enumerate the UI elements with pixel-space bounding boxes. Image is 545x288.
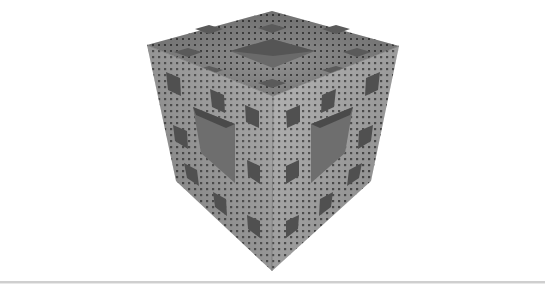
menger-sponge-image: Menger sponge fractal cube [0, 0, 545, 288]
horizontal-divider [0, 281, 545, 284]
menger-sponge-graphic [0, 0, 545, 288]
